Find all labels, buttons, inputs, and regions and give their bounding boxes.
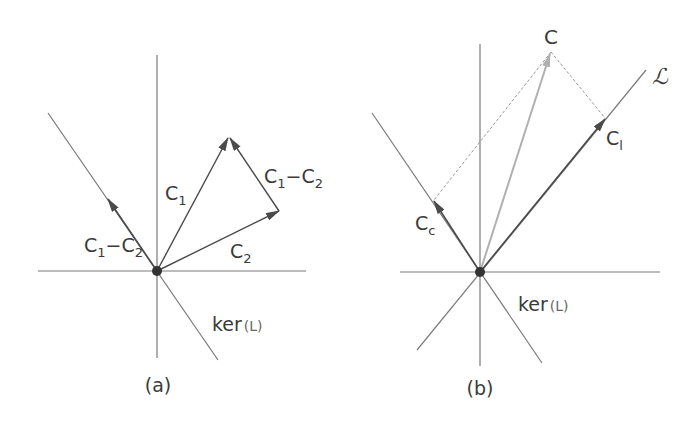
vector-cl-arrow bbox=[480, 119, 605, 272]
vector-c-arrow bbox=[480, 54, 550, 272]
panel-a: C1 C2 C1−C2 C1−C2 ker(L) (a) bbox=[38, 55, 323, 396]
dashed-c-to-cl bbox=[551, 52, 605, 118]
caption-a: (a) bbox=[145, 374, 171, 396]
label-difference-left: C1−C2 bbox=[84, 234, 143, 260]
label-c: C bbox=[544, 25, 558, 49]
vector-c2-arrow bbox=[157, 211, 279, 271]
dashed-c-to-cc bbox=[434, 52, 551, 200]
label-cc: Cc bbox=[415, 212, 435, 238]
origin-dot-b bbox=[475, 267, 485, 277]
vector-c1-arrow bbox=[157, 138, 228, 271]
label-difference-right: C1−C2 bbox=[264, 165, 323, 191]
label-c2: C2 bbox=[230, 240, 252, 266]
origin-dot-a bbox=[152, 266, 162, 276]
figure-canvas: C1 C2 C1−C2 C1−C2 ker(L) (a) C Cl Cc ℒ k… bbox=[0, 0, 697, 425]
caption-b: (b) bbox=[467, 377, 494, 399]
panel-b: C Cl Cc ℒ ker(L) (b) bbox=[372, 25, 669, 399]
label-kernel-b: ker(L) bbox=[518, 293, 569, 315]
label-cl: Cl bbox=[606, 127, 623, 153]
vector-cc-arrow bbox=[434, 201, 480, 272]
label-c1: C1 bbox=[165, 182, 187, 208]
label-kernel-a: ker(L) bbox=[212, 313, 263, 335]
label-line-L: ℒ bbox=[652, 64, 669, 89]
kernel-line-b bbox=[372, 113, 542, 363]
